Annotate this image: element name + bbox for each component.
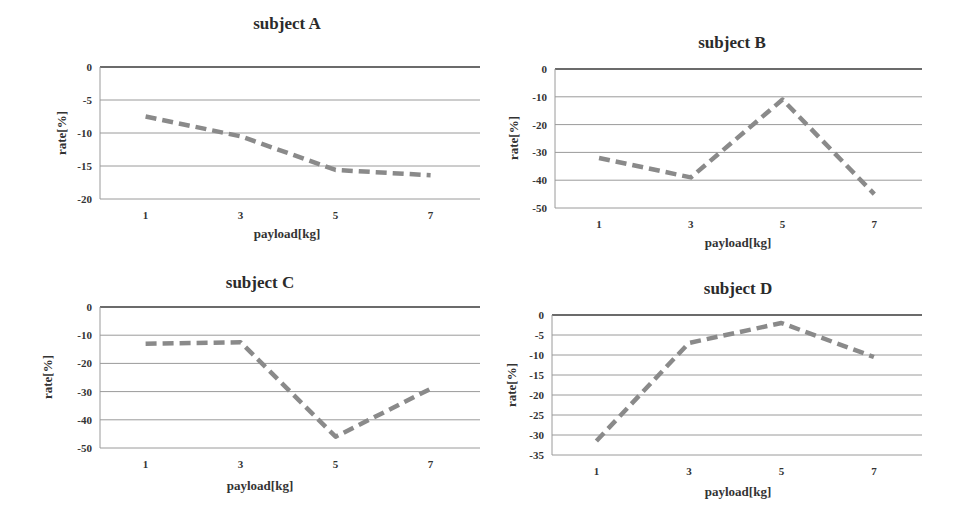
y-tick-label: -10 bbox=[77, 329, 92, 341]
y-tick-label: -15 bbox=[77, 160, 92, 172]
plot-subject-d: 0-5-10-15-20-25-30-351357 bbox=[529, 309, 922, 477]
x-tick-label: 3 bbox=[688, 218, 694, 230]
y-tick-label: -5 bbox=[535, 329, 545, 341]
data-line-subject-d bbox=[596, 323, 874, 441]
y-tick-label: -5 bbox=[83, 94, 93, 106]
plot-canvas: 0-5-10-15-2013570-10-20-30-40-5013570-10… bbox=[0, 0, 965, 531]
y-tick-label: 0 bbox=[87, 301, 93, 313]
x-tick-label: 7 bbox=[872, 218, 878, 230]
y-tick-label: -30 bbox=[77, 386, 92, 398]
y-tick-label: -25 bbox=[529, 409, 544, 421]
y-tick-label: -40 bbox=[532, 174, 547, 186]
x-tick-label: 1 bbox=[143, 458, 149, 470]
y-tick-label: 0 bbox=[542, 63, 548, 75]
x-tick-label: 7 bbox=[428, 458, 434, 470]
y-tick-label: -50 bbox=[532, 202, 547, 214]
x-tick-label: 1 bbox=[594, 465, 600, 477]
x-tick-label: 7 bbox=[871, 465, 877, 477]
y-tick-label: -35 bbox=[529, 449, 544, 461]
x-tick-label: 7 bbox=[428, 209, 434, 221]
x-tick-label: 5 bbox=[333, 458, 339, 470]
x-tick-label: 1 bbox=[143, 209, 149, 221]
y-tick-label: 0 bbox=[539, 309, 545, 321]
plot-subject-a: 0-5-10-15-201357 bbox=[77, 61, 480, 221]
y-tick-label: -10 bbox=[529, 349, 544, 361]
y-tick-label: -30 bbox=[529, 429, 544, 441]
y-tick-label: -20 bbox=[77, 193, 92, 205]
x-tick-label: 3 bbox=[686, 465, 692, 477]
y-tick-label: -30 bbox=[532, 146, 547, 158]
y-tick-label: -10 bbox=[532, 91, 547, 103]
y-tick-label: -10 bbox=[77, 127, 92, 139]
x-tick-label: 5 bbox=[779, 465, 785, 477]
y-tick-label: -20 bbox=[532, 119, 547, 131]
x-tick-label: 3 bbox=[238, 209, 244, 221]
y-tick-label: -20 bbox=[77, 357, 92, 369]
x-tick-label: 5 bbox=[333, 209, 339, 221]
x-tick-label: 5 bbox=[780, 218, 786, 230]
y-tick-label: -20 bbox=[529, 389, 544, 401]
y-tick-label: -50 bbox=[77, 442, 92, 454]
x-tick-label: 1 bbox=[596, 218, 602, 230]
y-tick-label: 0 bbox=[87, 61, 93, 73]
plot-subject-c: 0-10-20-30-40-501357 bbox=[77, 301, 480, 470]
y-tick-label: -40 bbox=[77, 414, 92, 426]
data-line-subject-c bbox=[146, 342, 431, 436]
y-tick-label: -15 bbox=[529, 369, 544, 381]
x-tick-label: 3 bbox=[238, 458, 244, 470]
plot-subject-b: 0-10-20-30-40-501357 bbox=[532, 63, 922, 230]
